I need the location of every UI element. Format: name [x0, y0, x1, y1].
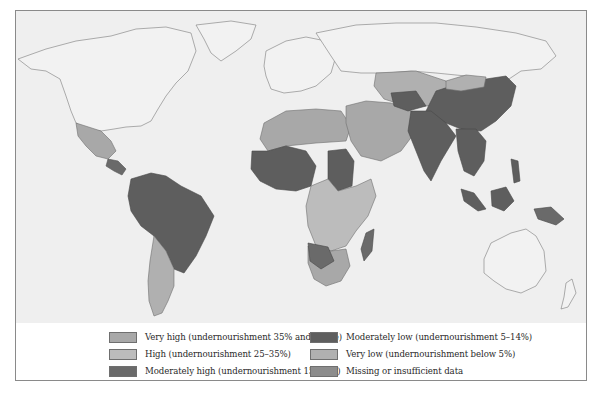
region-sumatra	[461, 189, 486, 211]
map-legend: Very high (undernourishment 35% and abov…	[16, 323, 586, 380]
map-figure: Very high (undernourishment 35% and abov…	[15, 10, 587, 381]
legend-swatch	[310, 349, 338, 360]
region-papua	[534, 207, 564, 225]
legend-swatch	[109, 332, 137, 343]
region-west-africa	[251, 146, 316, 191]
legend-label: Very low (undernourishment below 5%)	[346, 349, 515, 359]
legend-item-moderately-low: Moderately low (undernourishment 5–14%)	[310, 330, 532, 344]
region-borneo	[491, 187, 514, 211]
legend-label: Missing or insufficient data	[346, 366, 463, 376]
legend-item-very-low: Very low (undernourishment below 5%)	[310, 347, 515, 361]
legend-swatch	[310, 366, 338, 377]
region-north-africa	[260, 109, 351, 151]
region-philippines	[511, 159, 520, 183]
legend-label: Moderately low (undernourishment 5–14%)	[346, 332, 532, 342]
legend-swatch	[109, 366, 137, 377]
world-map	[16, 11, 586, 324]
world-map-svg	[16, 11, 586, 323]
region-new-zealand	[561, 279, 576, 309]
region-south-america-north	[128, 173, 214, 273]
region-greenland	[196, 21, 256, 61]
region-southeast-asia	[456, 129, 486, 176]
region-central-america	[106, 159, 126, 175]
legend-swatch	[310, 332, 338, 343]
legend-item-very-high: Very high (undernourishment 35% and abov…	[109, 330, 342, 344]
legend-item-high: High (undernourishment 25–35%)	[109, 347, 291, 361]
region-australia	[484, 229, 546, 293]
region-russia	[316, 23, 556, 83]
region-north-america	[18, 27, 196, 131]
legend-swatch	[109, 349, 137, 360]
legend-item-missing: Missing or insufficient data	[310, 364, 463, 378]
region-madagascar	[361, 229, 374, 261]
legend-label: High (undernourishment 25–35%)	[145, 349, 291, 359]
legend-item-moderately-high: Moderately high (undernourishment 15–24%…	[109, 364, 340, 378]
